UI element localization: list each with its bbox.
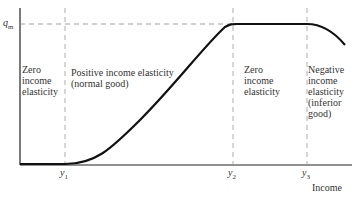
y3-label: y3 <box>302 167 310 181</box>
qm-label: qm <box>3 17 13 31</box>
engel-curve <box>20 24 345 164</box>
region-zero-elasticity-2: Zeroincomeelasticity <box>244 64 280 97</box>
region-positive-elasticity: Positive income elasticity(normal good) <box>71 67 174 89</box>
y2-label: y2 <box>228 167 236 181</box>
x-axis-label: Income <box>312 182 342 193</box>
region-zero-elasticity-1: Zeroincomeelasticity <box>22 64 58 97</box>
y1-label: y1 <box>60 167 68 181</box>
region-negative-elasticity: Negativeincomeelasticity(inferiorgood) <box>308 64 344 119</box>
